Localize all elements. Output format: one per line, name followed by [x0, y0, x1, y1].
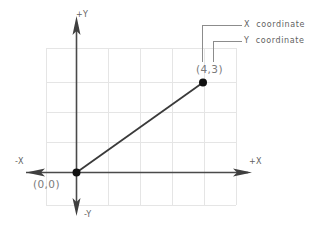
axis-lines [26, 24, 248, 204]
plotted-point [199, 79, 207, 87]
callout-leader-lines [203, 26, 242, 63]
positive-y-axis-label: +Y [76, 11, 88, 19]
origin-coordinate-label: (0,0) [33, 179, 60, 190]
vector-line [77, 83, 204, 173]
positive-x-axis-label: +X [249, 158, 262, 166]
point-coordinate-label: (4,3) [196, 64, 223, 75]
y-coordinate-leader [214, 42, 242, 63]
x-coordinate-leader [203, 26, 242, 63]
negative-y-axis-label: -Y [84, 211, 92, 219]
negative-x-axis-label: -X [15, 158, 24, 166]
coordinate-diagram: +Y -Y -X +X (0,0) (4,3) X coordinate Y c… [0, 0, 315, 235]
y-coordinate-callout-label: Y coordinate [244, 37, 304, 45]
origin-point [73, 169, 81, 177]
x-coordinate-callout-label: X coordinate [244, 21, 305, 29]
